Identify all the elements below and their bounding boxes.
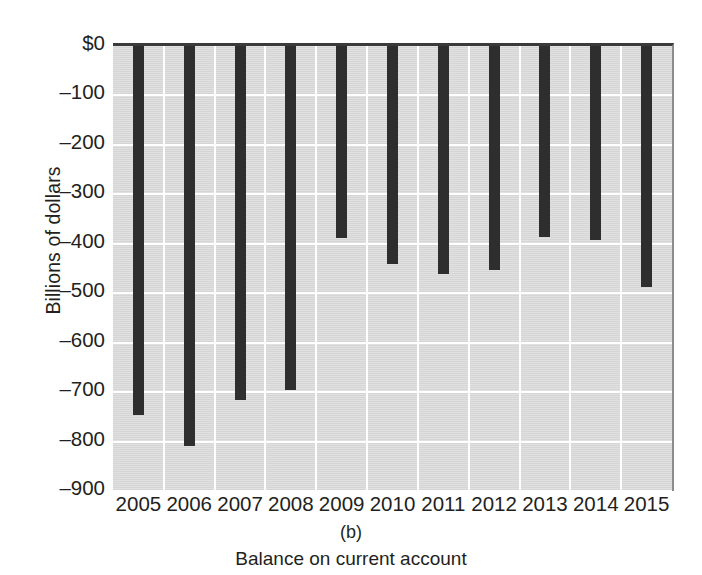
x-axis-tick-label: 2013 bbox=[522, 494, 568, 515]
y-axis-tick-label: –100 bbox=[33, 82, 105, 103]
x-axis-tick-label: 2015 bbox=[624, 494, 670, 515]
x-axis-tick-label: 2012 bbox=[471, 494, 517, 515]
bar bbox=[539, 46, 550, 237]
x-axis-tick-labels: 2005200620072008200920102011201220132014… bbox=[113, 494, 672, 522]
y-axis-tick-label: –700 bbox=[33, 379, 105, 400]
x-axis-tick-label: 2008 bbox=[268, 494, 314, 515]
chart-caption: Balance on current account bbox=[0, 548, 702, 570]
x-axis-tick-label: 2005 bbox=[116, 494, 162, 515]
plot-area bbox=[113, 43, 674, 491]
y-axis-tick-label: –800 bbox=[33, 428, 105, 449]
bar bbox=[133, 46, 144, 415]
bar bbox=[641, 46, 652, 287]
y-axis-tick-label: –500 bbox=[33, 280, 105, 301]
bar bbox=[336, 46, 347, 238]
y-axis-tick-label: –900 bbox=[33, 478, 105, 499]
y-axis-tick-label: –200 bbox=[33, 132, 105, 153]
x-axis-tick-label: 2011 bbox=[421, 494, 465, 515]
x-axis-tick-label: 2006 bbox=[166, 494, 212, 515]
bar-series-balance-on-current-account bbox=[113, 46, 672, 491]
y-axis-tick-label: –600 bbox=[33, 329, 105, 350]
bar bbox=[438, 46, 449, 274]
panel-label: (b) bbox=[0, 522, 702, 543]
x-axis-tick-label: 2014 bbox=[573, 494, 619, 515]
bar bbox=[387, 46, 398, 264]
bar bbox=[285, 46, 296, 390]
bar bbox=[489, 46, 500, 270]
y-axis-tick-label: –400 bbox=[33, 231, 105, 252]
bar bbox=[184, 46, 195, 446]
bar bbox=[590, 46, 601, 240]
x-axis-tick-label: 2009 bbox=[319, 494, 365, 515]
x-axis-tick-label: 2007 bbox=[217, 494, 263, 515]
y-axis-tick-label: $0 bbox=[33, 33, 105, 54]
y-axis-tick-label: –300 bbox=[33, 181, 105, 202]
bar bbox=[235, 46, 246, 400]
y-axis-tick-labels: $0–100–200–300–400–500–600–700–800–900 bbox=[33, 43, 105, 488]
chart-figure: Billions of dollars $0–100–200–300–400–5… bbox=[0, 0, 702, 575]
x-axis-tick-label: 2010 bbox=[370, 494, 416, 515]
